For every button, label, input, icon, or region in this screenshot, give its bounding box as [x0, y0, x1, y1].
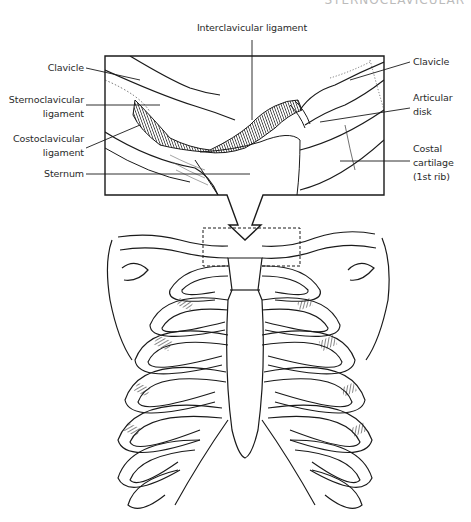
- left-ribs: [118, 266, 228, 508]
- label-articular-disk-line1: Articular: [413, 92, 452, 104]
- label-interclavicular-ligament: Interclavicular ligament: [172, 22, 332, 34]
- label-costal-cartilage-line2: cartilage: [413, 157, 454, 169]
- label-articular-disk-line2: disk: [413, 106, 432, 118]
- label-costoclavicular-ligament-line1: Costoclavicular: [0, 133, 84, 145]
- label-sternoclavicular-ligament-line1: Sternoclavicular: [0, 94, 84, 106]
- label-costoclavicular-ligament-line2: ligament: [0, 147, 84, 159]
- label-costal-cartilage-line3: (1st rib): [413, 171, 450, 183]
- label-clavicle-left: Clavicle: [0, 62, 84, 74]
- label-sternum: Sternum: [0, 168, 84, 180]
- right-ribs: [262, 266, 372, 508]
- sternoclavicular-joint-illustration: [0, 0, 471, 522]
- label-costal-cartilage-line1: Costal: [413, 143, 442, 155]
- label-clavicle-right: Clavicle: [413, 56, 449, 68]
- label-sternoclavicular-ligament-line2: ligament: [0, 108, 84, 120]
